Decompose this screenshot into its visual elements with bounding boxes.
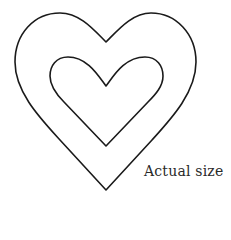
inner-heart-outline — [50, 57, 163, 146]
caption-label: Actual size — [144, 163, 223, 179]
